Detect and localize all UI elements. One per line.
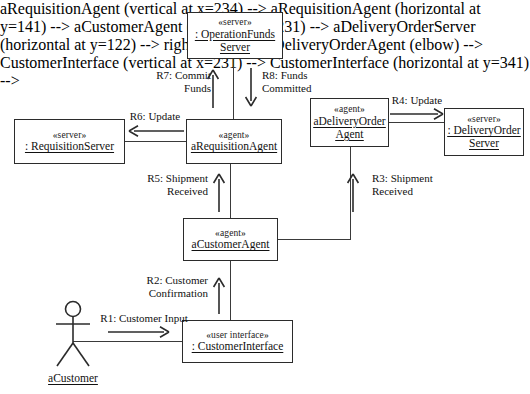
node-name: aRequisitionAgent [191, 140, 277, 153]
link-operationfunds-requisitionagent [233, 59, 234, 119]
message-r8-arrow-down [243, 68, 259, 108]
message-r6-label: R6: Update [118, 110, 192, 123]
actor-customer-label: aCustomer [38, 372, 108, 384]
node-stereotype: «agent» [215, 228, 246, 239]
message-r8-label: R8: Funds Committed [262, 69, 352, 95]
message-r1-label: R1: Customer Input [88, 312, 200, 325]
actor-stick-figure-icon [47, 300, 99, 370]
message-r2-label: R2: Customer Confirmation [118, 274, 208, 300]
node-stereotype: «agent» [219, 130, 250, 141]
message-r6-arrow-left [128, 124, 184, 138]
node-name: aDeliveryOrder Agent [313, 115, 385, 141]
link-customeragent-customerinterface [230, 261, 231, 320]
node-delivery-order-server[interactable]: «server» : DeliveryOrder Server [444, 108, 524, 156]
node-operation-funds-server[interactable]: «server» : OperationFunds Server [187, 12, 283, 59]
message-r3-arrow-up [345, 172, 361, 212]
message-r4-arrow-right [390, 107, 444, 121]
message-r4-label: R4: Update [382, 94, 452, 107]
link-requisitionagent-customeragent [230, 164, 231, 218]
node-name: : RequisitionServer [25, 140, 114, 153]
link-deliveryorderagent-deliveryorderserver [389, 122, 444, 123]
message-r1-arrow-right [108, 325, 170, 339]
node-delivery-order-agent[interactable]: «agent» aDeliveryOrder Agent [310, 98, 389, 147]
node-name: : OperationFunds Server [195, 28, 275, 54]
node-stereotype: «server» [218, 17, 252, 28]
link-customeragent-deliveryorder-horizontal [278, 239, 351, 240]
uml-communication-diagram: aRequisitionAgent (vertical at x=234) --… [0, 0, 530, 394]
message-r3-label: R3: Shipment Received [372, 172, 464, 198]
node-name: aCustomerAgent [192, 238, 270, 251]
node-customer-interface[interactable]: «user interface» : CustomerInterface [182, 320, 293, 363]
node-name: : CustomerInterface [192, 340, 284, 353]
message-r7-arrow-up [205, 68, 221, 108]
link-requisitionserver-requisitionagent [125, 141, 186, 142]
message-r5-label: R5: Shipment Received [124, 172, 208, 198]
node-name: : DeliveryOrder Server [447, 124, 520, 150]
message-r7-label: R7: Commit Funds [133, 69, 211, 95]
node-stereotype: «server» [467, 114, 501, 125]
node-stereotype: «agent» [334, 104, 365, 115]
node-stereotype: «user interface» [206, 330, 269, 341]
node-requisition-server[interactable]: «server» : RequisitionServer [14, 119, 125, 164]
node-requisition-agent[interactable]: «agent» aRequisitionAgent [186, 119, 282, 164]
node-stereotype: «server» [53, 130, 87, 141]
node-customer-agent[interactable]: «agent» aCustomerAgent [183, 218, 278, 261]
message-r5-arrow-up [211, 172, 227, 212]
actor-customer[interactable] [47, 300, 99, 370]
message-r2-arrow-up [211, 276, 227, 314]
